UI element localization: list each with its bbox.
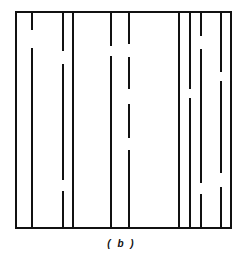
diagram-frame [16,12,231,228]
vertical-line-group [32,12,221,228]
broken-lines-diagram [0,0,243,262]
figure-caption: ( b ) [0,238,243,249]
